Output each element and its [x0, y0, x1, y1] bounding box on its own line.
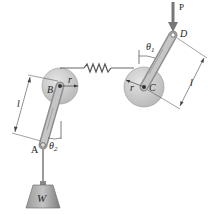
theta2-arc [48, 138, 61, 139]
dim-right-ext1 [177, 38, 207, 58]
dim-left-arrow-bottom-icon [14, 127, 18, 133]
radius-b-label: r [68, 74, 72, 85]
point-b-label: B [47, 84, 53, 95]
dim-right-arrow-top-icon [201, 58, 205, 63]
radius-c-label: r [130, 82, 134, 93]
dim-left-arrow-top-icon [28, 77, 32, 83]
point-c-label: C [149, 82, 156, 93]
theta2-subscript: 2 [54, 145, 58, 153]
spring [84, 64, 111, 72]
theta1-label: θ1 [146, 41, 154, 54]
weight-label: W [37, 192, 47, 204]
length-left-label: l [17, 98, 20, 109]
point-d-label: D [179, 28, 188, 39]
pin-d [171, 33, 175, 37]
force-p-arrow-icon [168, 22, 178, 32]
dim-right-arrow-bottom-icon [180, 101, 184, 106]
point-a-label: A [31, 144, 39, 155]
hanger-ring [40, 181, 46, 185]
force-p-label: P [179, 2, 184, 12]
mechanism-diagram: P D C r B r A l l θ1 θ2 W [0, 0, 210, 214]
theta2-label: θ2 [49, 140, 58, 153]
dim-left-ext2 [12, 133, 41, 141]
theta1-subscript: 1 [151, 46, 155, 54]
length-right-label: l [190, 77, 193, 88]
theta1-arc [139, 56, 155, 58]
pin-a [41, 143, 46, 148]
